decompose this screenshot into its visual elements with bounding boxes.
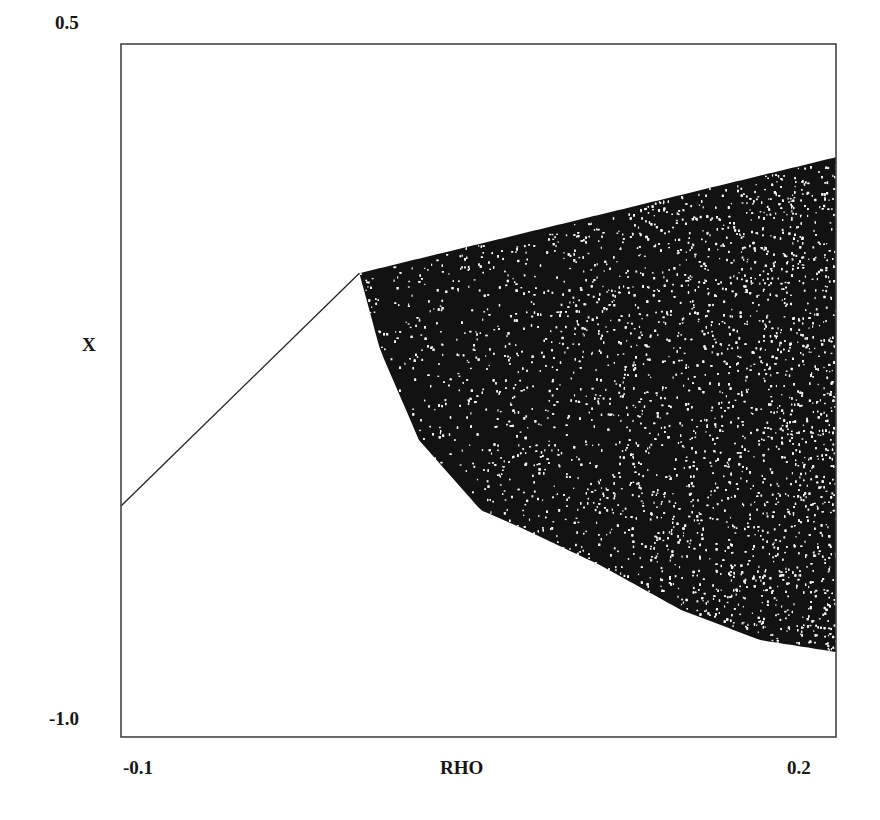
x-tick-left: -0.1 <box>123 757 153 779</box>
y-axis-label: X <box>82 334 96 356</box>
x-axis-label: RHO <box>440 757 483 779</box>
plot-area <box>0 0 880 820</box>
y-tick-top: 0.5 <box>55 12 79 34</box>
chaotic-band-fill <box>359 157 836 652</box>
x-tick-right: 0.2 <box>787 757 811 779</box>
chaotic-band <box>359 157 837 652</box>
stable-branch-line <box>121 273 359 506</box>
y-tick-bottom: -1.0 <box>49 708 79 730</box>
